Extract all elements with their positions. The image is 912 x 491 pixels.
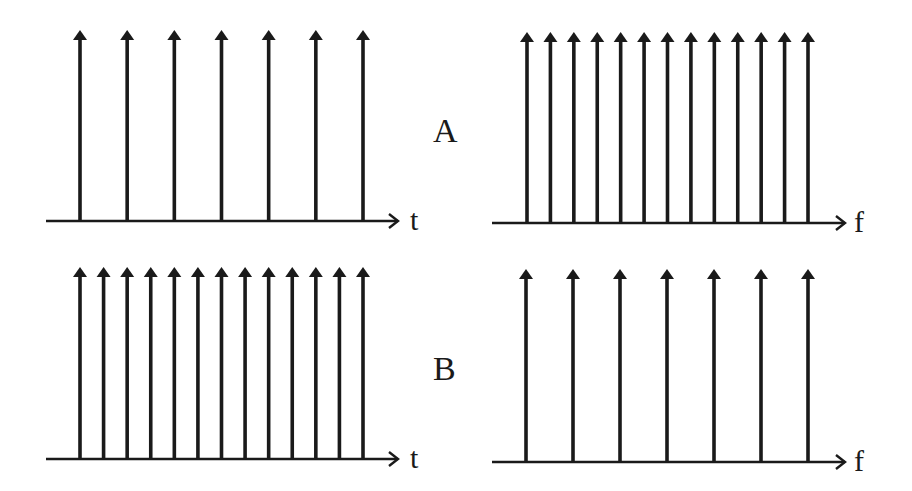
impulse	[707, 269, 721, 462]
impulse-arrowhead-icon	[309, 267, 323, 277]
impulse-arrowhead-icon	[684, 32, 698, 42]
impulse-arrowhead-icon	[167, 267, 181, 277]
impulse-arrowhead-icon	[661, 32, 675, 42]
impulse	[614, 32, 628, 223]
impulse	[801, 269, 815, 462]
impulse-arrowhead-icon	[215, 267, 229, 277]
impulse-arrowhead-icon	[754, 32, 768, 42]
impulse-arrowhead-icon	[356, 267, 370, 277]
impulse-arrowhead-icon	[238, 267, 252, 277]
impulse-arrowhead-icon	[120, 267, 134, 277]
impulse-arrowhead-icon	[262, 267, 276, 277]
axis-label: t	[410, 203, 419, 236]
impulse	[566, 269, 580, 462]
impulse	[144, 267, 158, 459]
impulse	[262, 30, 276, 221]
impulse	[778, 32, 792, 223]
impulse-arrowhead-icon	[801, 32, 815, 42]
impulse-arrowhead-icon	[519, 269, 533, 279]
impulse	[567, 32, 581, 223]
impulse-arrowhead-icon	[73, 267, 87, 277]
impulse-arrowhead-icon	[356, 30, 370, 40]
impulse-arrowhead-icon	[660, 269, 674, 279]
impulse	[661, 32, 675, 223]
panel-b-time: t	[46, 267, 419, 474]
impulse	[215, 267, 229, 459]
impulse	[167, 30, 181, 221]
impulse-arrowhead-icon	[707, 269, 721, 279]
impulse-arrowhead-icon	[567, 32, 581, 42]
impulse-arrowhead-icon	[543, 32, 557, 42]
axis-label: t	[410, 441, 419, 474]
impulse	[356, 30, 370, 221]
impulse-arrowhead-icon	[120, 30, 134, 40]
impulse	[520, 32, 534, 223]
impulse-arrowhead-icon	[97, 267, 111, 277]
impulse	[309, 267, 323, 459]
impulse-arrowhead-icon	[801, 269, 815, 279]
panel-a-time: t	[46, 30, 419, 236]
impulse	[707, 32, 721, 223]
impulse-arrowhead-icon	[614, 32, 628, 42]
impulse-arrowhead-icon	[167, 30, 181, 40]
panel-b-freq: f	[492, 269, 864, 477]
row-label-b: B	[433, 350, 456, 387]
impulse	[167, 267, 181, 459]
axis-label: f	[854, 444, 864, 477]
impulse-arrowhead-icon	[707, 32, 721, 42]
impulse-arrowhead-icon	[754, 269, 768, 279]
impulse	[97, 267, 111, 459]
impulse	[332, 267, 346, 459]
impulse	[120, 30, 134, 221]
axis-label: f	[854, 205, 864, 238]
impulse-arrowhead-icon	[332, 267, 346, 277]
impulse-arrowhead-icon	[215, 30, 229, 40]
impulse	[801, 32, 815, 223]
impulse-arrowhead-icon	[778, 32, 792, 42]
panel-a-freq: f	[492, 32, 864, 238]
impulse	[238, 267, 252, 459]
impulse-arrowhead-icon	[262, 30, 276, 40]
impulse	[191, 267, 205, 459]
impulse	[731, 32, 745, 223]
impulse-arrowhead-icon	[637, 32, 651, 42]
impulse	[73, 267, 87, 459]
impulse	[285, 267, 299, 459]
impulse	[262, 267, 276, 459]
impulse	[356, 267, 370, 459]
impulse	[660, 269, 674, 462]
impulse-arrowhead-icon	[520, 32, 534, 42]
impulse-arrowhead-icon	[73, 30, 87, 40]
row-label-a: A	[433, 112, 458, 149]
impulse-train-diagram: tftf A B	[0, 0, 912, 491]
impulse-arrowhead-icon	[590, 32, 604, 42]
impulse-arrowhead-icon	[731, 32, 745, 42]
impulse-arrowhead-icon	[309, 30, 323, 40]
impulse	[519, 269, 533, 462]
impulse	[637, 32, 651, 223]
impulse	[754, 269, 768, 462]
impulse	[613, 269, 627, 462]
impulse	[215, 30, 229, 221]
impulse	[73, 30, 87, 221]
impulse-arrowhead-icon	[566, 269, 580, 279]
impulse-arrowhead-icon	[191, 267, 205, 277]
impulse-arrowhead-icon	[613, 269, 627, 279]
impulse-arrowhead-icon	[285, 267, 299, 277]
impulse	[543, 32, 557, 223]
impulse	[754, 32, 768, 223]
impulse-arrowhead-icon	[144, 267, 158, 277]
impulse	[120, 267, 134, 459]
impulse	[590, 32, 604, 223]
impulse	[309, 30, 323, 221]
impulse	[684, 32, 698, 223]
